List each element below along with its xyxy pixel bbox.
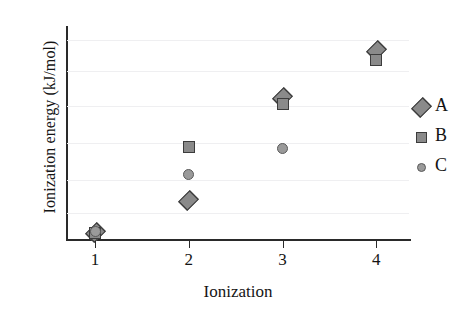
x-tick-label-4: 4 [361, 250, 391, 270]
gridline [67, 143, 409, 144]
data-point-b-2 [183, 141, 195, 153]
legend-item-c[interactable]: C [413, 152, 471, 182]
x-axis-label: Ionization [67, 282, 409, 302]
legend-item-b[interactable]: B [413, 122, 471, 152]
y-axis-label: Ionization energy (kJ/mol) [41, 2, 59, 252]
gridline [67, 213, 409, 214]
legend-item-a[interactable]: A [413, 92, 471, 122]
data-point-b-3 [277, 98, 289, 110]
x-tick-label-2: 2 [174, 250, 204, 270]
data-point-c-2 [183, 169, 194, 180]
data-point-c-1 [90, 226, 101, 237]
data-point-a-2 [178, 190, 199, 211]
chart-legend: ABC [413, 92, 471, 182]
x-tick-mark-3 [283, 241, 284, 248]
legend-label-c: C [435, 155, 447, 176]
data-point-c-3 [277, 143, 288, 154]
x-tick-label-3: 3 [268, 250, 298, 270]
x-tick-mark-2 [189, 241, 190, 248]
x-tick-mark-1 [95, 241, 96, 248]
plot-area [67, 26, 409, 240]
gridline [67, 180, 409, 181]
gridline [67, 71, 409, 72]
x-tick-mark-4 [376, 241, 377, 248]
legend-label-b: B [435, 125, 447, 146]
data-point-b-4 [370, 54, 382, 66]
legend-label-a: A [435, 95, 448, 116]
ionization-energy-scatter-chart: Ionization energy (kJ/mol) 1234 Ionizati… [0, 0, 471, 323]
gridline [67, 106, 409, 107]
x-tick-label-1: 1 [80, 250, 110, 270]
gridline [67, 40, 409, 41]
